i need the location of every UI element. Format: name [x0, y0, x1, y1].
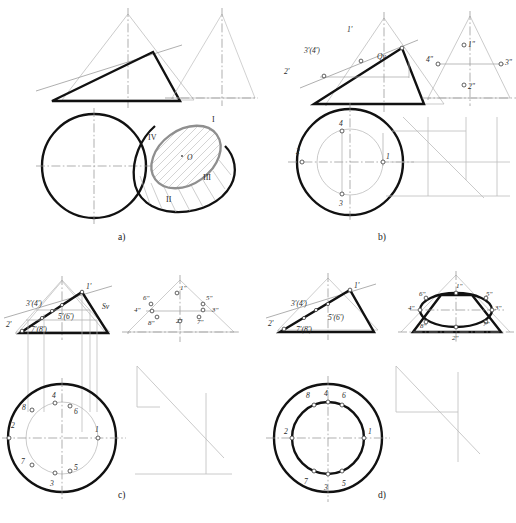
- panel-d-figure: 1' 3'(4') 5'(6') 2' 7'(8'): [258, 262, 516, 523]
- point-8-top: [312, 403, 316, 407]
- point-4-profile: [418, 308, 422, 312]
- panel-c-label-2-profile: 2": [176, 317, 183, 325]
- label-center-O: O: [187, 153, 193, 162]
- point-4-top: [53, 401, 57, 405]
- panel-d-label-1-top: 1: [368, 427, 372, 436]
- panel-d-label-2-front: 2': [268, 319, 274, 328]
- panel-b-projection-construction: [386, 117, 510, 198]
- label-roman-IV: IV: [148, 133, 157, 142]
- point-2-front: [282, 327, 286, 331]
- panel-b-label-2-top: 2: [296, 147, 300, 156]
- panel-c-label-8-top: 8: [22, 403, 26, 412]
- point-1-top: [96, 436, 100, 440]
- point-2-profile: [454, 325, 458, 329]
- panel-d-label-78-front: 7'(8'): [296, 325, 312, 334]
- point-4-top: [340, 129, 344, 133]
- panel-b-figure: 1' 3'(4') 2' Qv 4 2: [258, 0, 516, 250]
- point-6-profile: [149, 302, 153, 306]
- point-34-front: [314, 308, 317, 311]
- panel-b-label-4-profile: 4": [426, 55, 434, 64]
- point-6-top: [68, 404, 72, 408]
- point-3-top: [340, 192, 344, 196]
- panel-b-label-3-profile: 3": [504, 58, 513, 67]
- point-3-profile: [201, 308, 205, 312]
- panel-b-label-4-top: 4: [339, 119, 343, 128]
- panel-d-label-4-top: 4: [324, 389, 328, 398]
- point-78-front: [40, 316, 43, 319]
- panel-b-caption: b): [378, 232, 386, 243]
- panel-c-label-4-top: 4: [52, 391, 56, 400]
- panel-c-label-3-top: 3: [49, 479, 54, 488]
- point-2-top: [300, 160, 304, 164]
- panel-d-top-view: [266, 376, 390, 502]
- panel-d-label-6-top: 6: [342, 391, 346, 400]
- panel-b: 1' 3'(4') 2' Qv 4 2: [258, 0, 516, 250]
- label-roman-III: III: [203, 173, 211, 182]
- point-3-top: [326, 472, 330, 476]
- point-1-front: [348, 288, 352, 292]
- panel-c-label-78-front: 7'(8'): [31, 325, 47, 334]
- point-34-front: [359, 59, 363, 63]
- panel-c-label-6-top: 6: [74, 407, 78, 416]
- panel-c: 1' 3'(4') Sv 5'(6') 2' 7'(8'): [0, 262, 258, 523]
- panel-a-caption: a): [118, 232, 125, 243]
- point-3-top: [53, 471, 57, 475]
- panel-b-label-1-front: 1': [347, 25, 353, 34]
- point-1-profile: [462, 43, 466, 47]
- label-roman-I: I: [212, 115, 215, 124]
- point-3-profile: [499, 62, 503, 66]
- drawing-sheet: I IV III II O a): [0, 0, 516, 523]
- panel-c-label-2-top: 2: [11, 421, 15, 430]
- point-6-top: [340, 403, 344, 407]
- point-2-front: [20, 329, 24, 333]
- point-56-front: [326, 302, 329, 305]
- panel-b-profile-view: [422, 11, 516, 106]
- panel-d-label-8-top: 8: [306, 391, 310, 400]
- cut-solid-outline-bold: [52, 52, 180, 101]
- cutting-plane-trace: [266, 284, 376, 318]
- panel-d-label-5-profile: 5": [486, 290, 493, 298]
- panel-c-front-view: [4, 274, 116, 432]
- panel-b-label-34-front: 3'(4'): [303, 46, 320, 55]
- panel-c-projection-construction: [135, 366, 232, 474]
- panel-c-label-7-profile: 7": [197, 318, 204, 326]
- panel-b-front-view: [300, 12, 444, 112]
- point-78-front: [302, 316, 305, 319]
- point-1-top: [362, 436, 366, 440]
- panel-c-label-56-front: 5'(6'): [58, 312, 74, 321]
- panel-d-label-8-profile: 8": [420, 322, 427, 330]
- point-56-front: [60, 303, 63, 306]
- point-1-front: [80, 290, 84, 294]
- panel-c-label-1-profile: 1": [180, 284, 187, 292]
- panel-b-label-3-top: 3: [338, 199, 343, 208]
- panel-c-label-34-front: 3'(4'): [25, 299, 42, 308]
- panel-c-caption: c): [118, 490, 125, 501]
- panel-d-label-7-profile: 7": [483, 320, 490, 328]
- panel-d-label-4-profile: 4": [408, 304, 415, 312]
- panel-c-label-3-profile: 3": [211, 306, 219, 314]
- panel-a-front-view: [36, 8, 194, 108]
- section-hatching: [96, 66, 258, 240]
- panel-d-label-3-top: 3: [323, 483, 328, 492]
- label-roman-II: II: [166, 195, 172, 204]
- point-34-front: [50, 309, 53, 312]
- panel-b-label-2-front: 2': [284, 67, 290, 76]
- panel-d-label-6-profile: 6": [419, 290, 426, 298]
- point-2-profile: [462, 83, 466, 87]
- panel-d-front-view: [266, 273, 378, 340]
- point-4-profile: [436, 62, 440, 66]
- panel-c-label-5-profile: 5": [206, 294, 213, 302]
- panel-d: 1' 3'(4') 5'(6') 2' 7'(8'): [258, 262, 516, 523]
- panel-d-label-7-top: 7: [304, 477, 309, 486]
- cutting-plane-trace: [36, 45, 182, 91]
- panel-c-label-2-front: 2': [6, 320, 12, 329]
- panel-d-label-56-front: 5'(6'): [328, 313, 344, 322]
- point-2-front: [322, 74, 326, 78]
- panel-d-label-2-top: 2: [284, 427, 288, 436]
- panel-b-label-1-profile: 1": [468, 40, 476, 49]
- point-5-top: [340, 469, 344, 473]
- panel-c-label-4-profile: 4": [134, 306, 141, 314]
- panel-b-label-Qv: Qv: [377, 52, 386, 61]
- panel-d-label-5-top: 5: [342, 479, 346, 488]
- point-5-top: [68, 469, 72, 473]
